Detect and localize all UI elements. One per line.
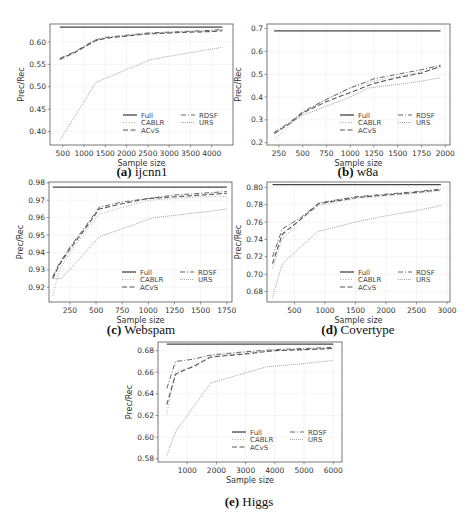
legend-label-urs: URS [308,436,323,444]
x-tick-label: 4000 [265,466,284,475]
caption-letter: (b) [338,164,354,179]
y-tick-label: 0.68 [137,346,154,355]
y-tick-label: 0.58 [137,454,154,463]
caption-webspam: (c) Webspam [107,322,175,338]
y-tick-label: 0.60 [137,433,154,442]
chart-higgs: 1000200030004000500060000.580.600.620.64… [0,0,474,520]
y-tick-label: 0.64 [137,389,154,398]
caption-letter: (d) [321,322,337,337]
caption-name: Webspam [124,322,175,337]
y-tick-label: 0.62 [137,411,154,420]
x-tick-label: 5000 [294,466,313,475]
series-acvs [167,349,333,405]
caption-name: ijcnn1 [135,164,168,179]
caption-covertype: (d) Covertype [321,322,394,338]
caption-higgs: (e) Higgs [225,494,274,510]
x-tick-label: 6000 [324,466,343,475]
legend-label-acvs: ACvS [250,444,269,452]
x-tick-label: 3000 [236,466,255,475]
x-axis-label: Sample size [226,476,274,485]
caption-w8a: (b) w8a [338,164,379,180]
series-cablr [167,349,333,414]
y-axis-label: Prec/Rec [125,385,134,419]
caption-name: Covertype [340,322,394,337]
caption-letter: (c) [107,322,121,337]
series-rdsf [167,347,333,388]
x-tick-label: 1000 [178,466,197,475]
caption-ijcnn1: (a) ijcnn1 [117,164,168,180]
y-tick-label: 0.66 [137,368,154,377]
caption-name: w8a [357,164,379,179]
caption-name: Higgs [242,494,273,509]
caption-letter: (a) [117,164,132,179]
caption-letter: (e) [225,494,239,509]
x-tick-label: 2000 [207,466,226,475]
